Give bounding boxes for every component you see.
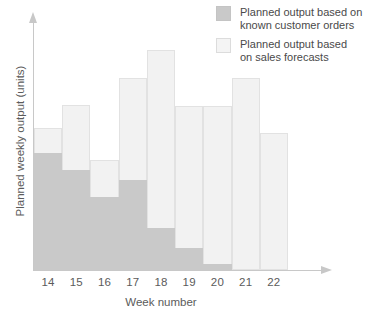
x-tick-label-22: 22	[260, 276, 288, 288]
bar-group	[62, 20, 90, 270]
legend-swatch-icon-forecast	[216, 38, 231, 53]
bar-forecast	[232, 78, 260, 270]
bar-forecast	[175, 106, 203, 270]
bar-group	[147, 20, 175, 270]
legend-item-label: Planned output based on sales forecasts	[240, 38, 347, 63]
bar-orders	[34, 153, 62, 270]
x-tick-label-18: 18	[147, 276, 175, 288]
chart-figure: 141516171819202122 Week number Planned w…	[0, 0, 367, 315]
y-axis-title: Planned weekly output (units)	[14, 16, 32, 266]
x-tick-label-19: 19	[175, 276, 203, 288]
bar-group	[119, 20, 147, 270]
bar-orders	[203, 264, 231, 270]
bar-orders	[62, 170, 90, 270]
arrow-right-icon	[321, 266, 332, 274]
legend-swatch-icon-orders	[216, 6, 231, 21]
bar-orders	[147, 228, 175, 270]
bar-group	[90, 20, 118, 270]
bar-forecast	[260, 133, 288, 270]
x-tick-label-20: 20	[203, 276, 231, 288]
x-axis-tick-labels: 141516171819202122	[34, 276, 288, 292]
bar-orders	[119, 180, 147, 270]
bar-group	[175, 20, 203, 270]
bar-orders	[175, 248, 203, 270]
legend-item-orders: Planned output based on known customer o…	[216, 6, 367, 31]
x-tick-label-17: 17	[119, 276, 147, 288]
chart-legend: Planned output based on known customer o…	[216, 6, 367, 70]
x-tick-label-21: 21	[232, 276, 260, 288]
x-axis-line	[33, 270, 322, 271]
bar-group	[34, 20, 62, 270]
x-tick-label-14: 14	[34, 276, 62, 288]
legend-item-label: Planned output based on known customer o…	[240, 6, 362, 31]
legend-item-forecast: Planned output based on sales forecasts	[216, 38, 367, 63]
bar-forecast	[203, 106, 231, 270]
x-tick-label-15: 15	[62, 276, 90, 288]
x-tick-label-16: 16	[90, 276, 118, 288]
x-axis-title: Week number	[34, 296, 288, 308]
bar-orders	[90, 197, 118, 270]
